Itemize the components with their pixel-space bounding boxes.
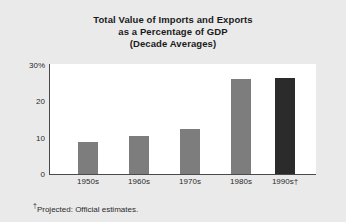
y-tick-label: 20 xyxy=(1,97,45,106)
footnote-text: Projected: Official estimates. xyxy=(37,205,138,214)
y-tick-label: 30% xyxy=(1,61,45,70)
chart-title-line-1: Total Value of Imports and Exports xyxy=(0,14,346,26)
bars-layer xyxy=(49,64,316,174)
chart-title-line-3: (Decade Averages) xyxy=(0,38,346,50)
bar-1980s xyxy=(231,79,251,174)
y-axis-tick-labels: 30% 20 10 0 xyxy=(0,0,45,222)
chart-title: Total Value of Imports and Exports as a … xyxy=(0,14,346,50)
chart-figure: Total Value of Imports and Exports as a … xyxy=(0,0,346,222)
chart-footnote: †Projected: Official estimates. xyxy=(33,202,138,214)
chart-title-line-2: as a Percentage of GDP xyxy=(0,26,346,38)
x-axis-tick-labels: 1950s 1960s 1970s 1980s 1990s† xyxy=(49,177,316,191)
bar-1960s xyxy=(129,136,149,175)
x-tick-label-1990s: 1990s† xyxy=(255,177,315,186)
bar-1950s xyxy=(78,142,98,174)
bar-1970s xyxy=(180,129,200,174)
y-tick-label: 0 xyxy=(1,170,45,179)
x-axis-line xyxy=(49,174,316,175)
bar-1990s xyxy=(275,78,295,174)
y-tick-label: 10 xyxy=(1,134,45,143)
